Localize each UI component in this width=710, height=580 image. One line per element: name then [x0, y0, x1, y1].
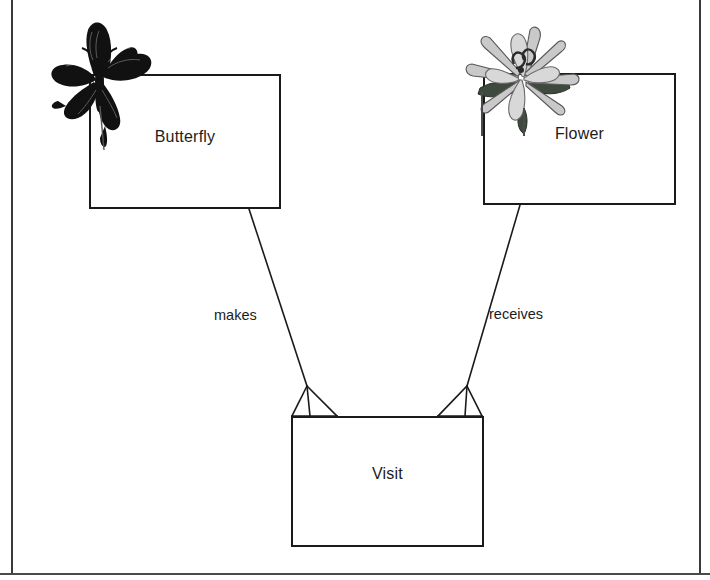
entity-label-visit: Visit	[372, 466, 403, 482]
crows-foot-many-left	[292, 386, 337, 416]
connector-flower-visit	[467, 205, 520, 386]
page-frame-bottom-edge	[0, 573, 710, 575]
relationship-label-makes: makes	[214, 307, 257, 323]
page-frame-left-edge	[11, 0, 13, 575]
connector-butterfly-visit	[249, 209, 307, 386]
entity-label-butterfly: Butterfly	[155, 129, 216, 145]
relationship-label-receives: receives	[489, 306, 543, 322]
entity-box-butterfly[interactable]: Butterfly	[89, 74, 281, 209]
entity-label-flower: Flower	[555, 126, 604, 142]
entity-box-visit[interactable]: Visit	[291, 416, 484, 547]
crows-foot-many-right	[438, 386, 482, 416]
er-diagram-canvas: Butterfly Flower Visit	[0, 0, 710, 580]
entity-box-flower[interactable]: Flower	[483, 73, 676, 205]
page-frame-right-edge	[699, 0, 701, 575]
